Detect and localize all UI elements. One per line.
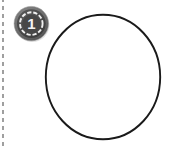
badge-number: 1 <box>27 15 35 32</box>
main-circle-svg <box>44 13 162 141</box>
main-circle-shape[interactable] <box>44 13 162 141</box>
main-circle-outline <box>46 15 160 139</box>
edge-dashed-line <box>2 0 4 147</box>
medal-rank-one-icon: 1 <box>13 4 50 44</box>
image-canvas: 1 <box>0 0 173 147</box>
rank-badge[interactable]: 1 <box>13 4 50 44</box>
